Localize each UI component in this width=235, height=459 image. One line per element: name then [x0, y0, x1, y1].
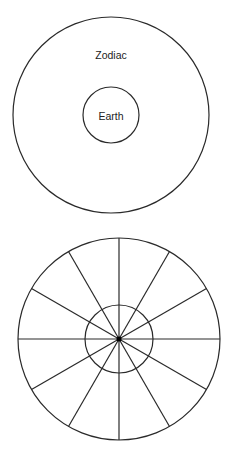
top-figure: Zodiac Earth: [13, 17, 209, 213]
wheel-spoke: [119, 339, 206, 390]
earth-label: Earth: [98, 110, 123, 122]
wheel-spoke: [32, 339, 119, 390]
wheel-spoke: [119, 339, 170, 426]
wheel-spoke: [32, 289, 119, 340]
wheel-spoke: [119, 252, 170, 339]
wheel-center-dot: [117, 337, 122, 342]
zodiac-diagram: Zodiac Earth: [0, 0, 235, 459]
zodiac-label: Zodiac: [95, 49, 127, 61]
wheel-spoke: [69, 252, 120, 339]
wheel-spoke: [119, 289, 206, 340]
wheel-spoke: [69, 339, 120, 426]
bottom-figure: [18, 238, 220, 440]
